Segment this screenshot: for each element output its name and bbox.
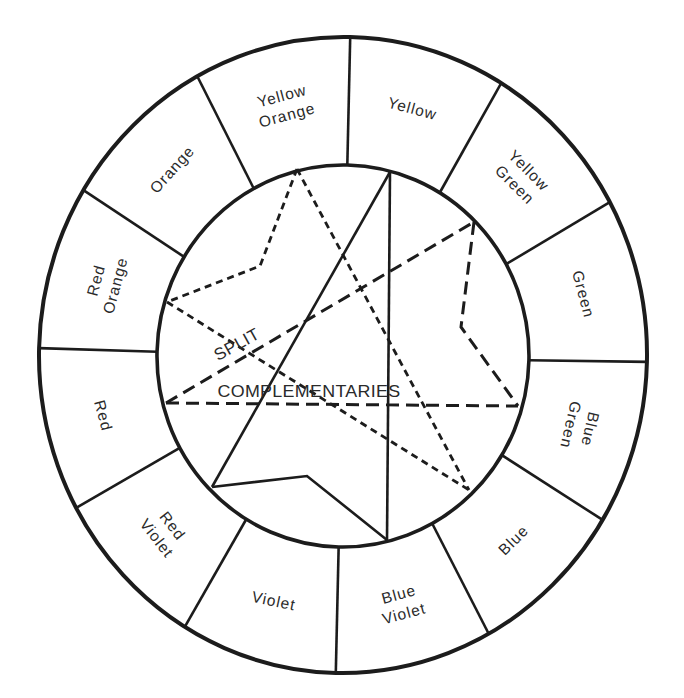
segment-label-green: Green xyxy=(569,269,598,320)
split-short-diagonal-1 xyxy=(297,169,469,490)
segment-divider xyxy=(430,523,491,633)
solid-line-diagonal xyxy=(212,172,390,487)
outer-circle xyxy=(32,30,654,680)
split-label: SPLIT xyxy=(211,324,263,364)
wheel-ring xyxy=(32,30,654,680)
segment-divider xyxy=(529,359,647,363)
split-long-horizontal xyxy=(166,403,518,406)
solid-line-vertical xyxy=(387,172,390,540)
segment-label-line: Blue xyxy=(495,522,532,559)
segment-label-violet: Violet xyxy=(250,588,297,614)
complementaries-label: COMPLEMENTARIES xyxy=(218,382,401,401)
segment-label-blue-violet: BlueViolet xyxy=(375,580,428,627)
segment-divider xyxy=(82,190,186,257)
split-long-right-notch xyxy=(461,222,518,406)
segment-label-line: Red xyxy=(91,398,116,433)
segment-label-line: Yellow xyxy=(386,94,439,123)
segment-divider xyxy=(500,455,604,520)
inner-circle xyxy=(153,161,534,551)
segment-label-blue: Blue xyxy=(495,522,532,559)
segment-divider xyxy=(440,82,502,194)
color-wheel-diagram: YellowYellowGreenGreenBlueGreenBlueBlueV… xyxy=(0,0,684,698)
split-short-left-notch xyxy=(167,169,297,302)
solid-triad-lines xyxy=(212,172,390,540)
segment-label-red-orange: RedOrange xyxy=(80,250,131,315)
segment-label-red: Red xyxy=(91,398,116,433)
segment-divider xyxy=(76,446,180,511)
split-long-diagonal xyxy=(166,222,474,403)
segment-label-line: Violet xyxy=(250,588,297,614)
segment-label-yellow-orange: YellowOrange xyxy=(252,80,317,131)
segment-label-line: Green xyxy=(569,269,598,320)
segment-divider xyxy=(347,37,350,165)
split-dashed-long xyxy=(166,222,518,406)
segment-divider xyxy=(39,348,157,352)
segment-divider xyxy=(195,76,257,188)
segment-label-yellow: Yellow xyxy=(386,94,439,123)
segment-label-blue-green: BlueGreen xyxy=(557,400,604,455)
split-dashed-short xyxy=(167,169,469,490)
segment-label-orange: Orange xyxy=(146,142,197,196)
solid-line-bottom-notch xyxy=(212,476,387,540)
segment-label-line: Orange xyxy=(146,142,197,196)
segment-divider xyxy=(336,547,339,673)
segment-divider xyxy=(185,518,246,628)
segment-label-yellow-green: YellowGreen xyxy=(491,147,553,209)
segment-label-red-violet: RedViolet xyxy=(137,503,194,561)
segment-dividers xyxy=(32,30,654,680)
segment-divider xyxy=(506,200,610,267)
segment-label-line: Orange xyxy=(99,255,130,315)
